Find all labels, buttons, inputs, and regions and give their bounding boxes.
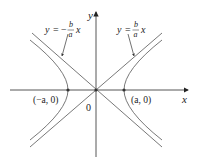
svg-text:y: y [44, 24, 50, 35]
y-axis-label: y [87, 9, 93, 21]
svg-text:a: a [134, 30, 138, 39]
svg-text:b: b [69, 20, 73, 29]
svg-text:b: b [134, 20, 138, 29]
svg-text:x: x [140, 24, 146, 35]
svg-text:a: a [69, 30, 73, 39]
vertex-left-label: (−a, 0) [33, 95, 58, 106]
origin-label: 0 [86, 102, 91, 113]
vertex-right-point [122, 88, 125, 91]
origin-point [94, 88, 97, 91]
equation-negative-asymptote: y = − b a x [44, 20, 81, 39]
equation-positive-asymptote: y = b a x [116, 20, 146, 39]
svg-text:−: − [61, 24, 67, 35]
svg-text:y: y [116, 24, 122, 35]
vertex-right-label: (a, 0) [131, 95, 151, 106]
hyperbola-diagram: y x 0 (−a, 0) (a, 0) y = − b a x y = b a… [0, 0, 201, 166]
svg-text:=: = [53, 24, 59, 35]
svg-text:=: = [125, 24, 131, 35]
pointer-negative-asymptote [62, 34, 68, 56]
svg-text:x: x [75, 24, 81, 35]
vertex-left-point [66, 88, 69, 91]
x-axis-label: x [181, 93, 187, 105]
